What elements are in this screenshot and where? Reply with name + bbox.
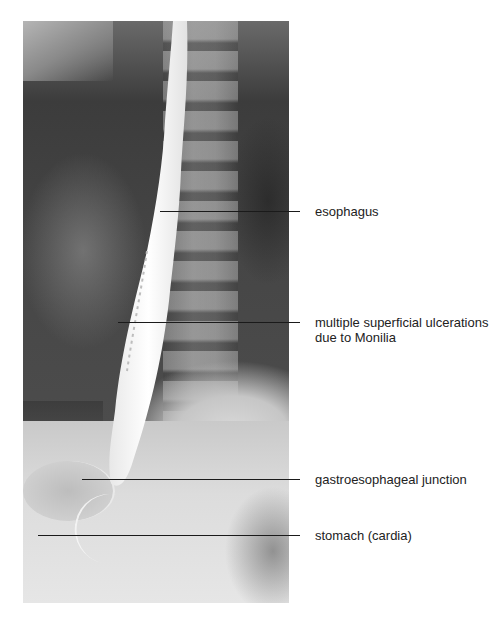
label-esophagus: esophagus bbox=[315, 204, 379, 219]
label-esophagus-text: esophagus bbox=[315, 204, 379, 219]
label-ge-junction: gastroesophageal junction bbox=[315, 472, 467, 487]
label-stomach: stomach (cardia) bbox=[315, 528, 412, 543]
label-ulcerations-line1: multiple superficial ulcerations bbox=[315, 315, 488, 330]
leader-line-ge-junction bbox=[82, 479, 300, 480]
leader-line-ulcerations bbox=[118, 322, 300, 323]
label-ulcerations-line2: due to Monilia bbox=[315, 330, 488, 345]
label-stomach-text: stomach (cardia) bbox=[315, 528, 412, 543]
leader-line-stomach bbox=[38, 535, 300, 536]
label-ulcerations: multiple superficial ulcerations due to … bbox=[315, 315, 488, 345]
label-ge-junction-text: gastroesophageal junction bbox=[315, 472, 467, 487]
esophagus-barium-column bbox=[23, 21, 289, 603]
leader-line-esophagus bbox=[160, 211, 300, 212]
xray-image bbox=[23, 21, 289, 603]
